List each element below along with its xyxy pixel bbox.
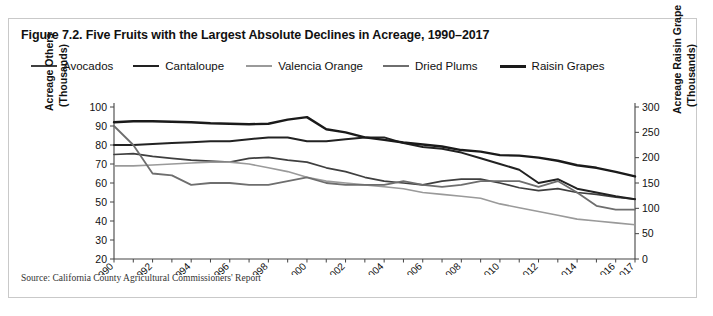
legend-label: Raisin Grapes xyxy=(532,60,605,72)
legend-item-cantaloupe[interactable]: Cantaloupe xyxy=(133,60,224,72)
y-axis-left-tick-label: 40 xyxy=(95,215,107,227)
figure-container: Figure 7.2. Five Fruits with the Largest… xyxy=(8,18,697,298)
line-chart-svg: 2030405060708090100050100150200250300199… xyxy=(9,75,698,275)
y-axis-right-tick-label: 150 xyxy=(642,177,660,189)
y-axis-right-label-line1: Acreage Raisin Grape xyxy=(671,5,683,114)
y-axis-left-tick-label: 50 xyxy=(95,196,107,208)
y-axis-left-tick-label: 30 xyxy=(95,234,107,246)
source-note: Source: California County Agricultural C… xyxy=(21,273,261,283)
series-line-cantaloupe xyxy=(114,137,635,199)
legend-item-dried-plums[interactable]: Dried Plums xyxy=(383,60,478,72)
x-axis-tick-label: 2006 xyxy=(401,260,425,275)
y-axis-left-label-line2: (Thousands) xyxy=(57,44,69,107)
x-axis-tick-label: 2008 xyxy=(439,260,463,275)
plot-area: 2030405060708090100050100150200250300199… xyxy=(9,75,698,275)
y-axis-right-tick-label: 0 xyxy=(642,253,648,265)
x-axis-tick-label: 2000 xyxy=(285,260,309,275)
y-axis-right-label-line2: (Thousands) xyxy=(685,44,697,107)
legend-item-valencia-orange[interactable]: Valencia Orange xyxy=(246,60,363,72)
legend-item-raisin-grapes[interactable]: Raisin Grapes xyxy=(500,60,605,72)
y-axis-left-tick-label: 60 xyxy=(95,177,107,189)
x-axis-tick-label: 2012 xyxy=(516,260,540,275)
x-axis-tick-label: 2004 xyxy=(362,260,386,275)
y-axis-left-tick-label: 70 xyxy=(95,158,107,170)
y-axis-left-tick-label: 80 xyxy=(95,139,107,151)
legend-line-swatch-icon xyxy=(246,65,272,67)
series-line-valencia-orange xyxy=(114,162,635,225)
y-axis-left-label-line1: Acreage Others xyxy=(43,93,55,111)
y-axis-right-tick-label: 100 xyxy=(642,202,660,214)
x-axis-tick-label: 2014 xyxy=(555,260,579,275)
series-line-raisin-grapes xyxy=(114,117,635,176)
legend-label: Avocados xyxy=(63,60,113,72)
legend-label: Cantaloupe xyxy=(165,60,224,72)
x-axis-tick-label: 2002 xyxy=(323,260,347,275)
x-axis-tick-label: 2017 xyxy=(613,260,637,275)
y-axis-right-tick-label: 50 xyxy=(642,227,654,239)
chart-legend: AvocadosCantaloupeValencia OrangeDried P… xyxy=(31,57,691,75)
y-axis-right-tick-label: 300 xyxy=(642,101,660,113)
x-axis-tick-label: 2016 xyxy=(594,260,618,275)
legend-line-swatch-icon xyxy=(500,65,526,68)
y-axis-left-tick-label: 90 xyxy=(95,120,107,132)
legend-line-swatch-icon xyxy=(383,65,409,67)
figure-title: Figure 7.2. Five Fruits with the Largest… xyxy=(21,28,489,42)
legend-label: Valencia Orange xyxy=(278,60,363,72)
legend-label: Dried Plums xyxy=(415,60,478,72)
y-axis-left-tick-label: 100 xyxy=(89,101,107,113)
y-axis-right-tick-label: 250 xyxy=(642,126,660,138)
legend-line-swatch-icon xyxy=(133,65,159,67)
y-axis-right-tick-label: 200 xyxy=(642,151,660,163)
x-axis-tick-label: 2010 xyxy=(478,260,502,275)
